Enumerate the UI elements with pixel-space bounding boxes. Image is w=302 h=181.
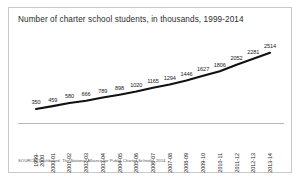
point-label: 898 [115,85,124,91]
point-label: 2281 [247,49,259,55]
line-series-svg [18,30,284,122]
source-note: SOURCE: Dashboard, The National Alliance… [18,158,283,164]
point-label: 789 [98,88,107,94]
point-label: 2052 [231,55,243,61]
point-label: 580 [65,93,74,99]
point-label: 1627 [197,66,209,72]
point-label: 1806 [214,62,226,68]
point-label: 1446 [180,71,192,77]
x-axis-tick-labels: 1999- 20002000-012001-022002-032003-0420… [18,125,284,155]
x-axis-line [18,123,284,124]
point-label: 459 [48,97,57,103]
point-label: 666 [82,91,91,97]
point-label: 2514 [264,43,276,49]
point-label: 1020 [130,82,142,88]
point-label: 1294 [164,75,176,81]
chart-title: Number of charter school students, in th… [18,15,283,25]
plot-area: 3504595806667898981020116512941446162718… [18,30,284,122]
point-label: 350 [31,99,40,105]
chart-figure: Number of charter school students, in th… [8,7,292,173]
point-label: 1165 [147,78,159,84]
